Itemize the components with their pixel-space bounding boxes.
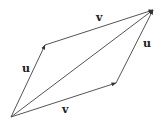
vector-u-left xyxy=(11,45,45,117)
vector-sum-diagonal xyxy=(11,10,153,117)
vector-diagram: u v v u xyxy=(0,0,163,127)
label-u-right: u xyxy=(143,37,151,50)
label-u-left: u xyxy=(22,62,30,75)
label-v-top: v xyxy=(95,11,103,24)
label-v-bottom: v xyxy=(61,103,69,116)
